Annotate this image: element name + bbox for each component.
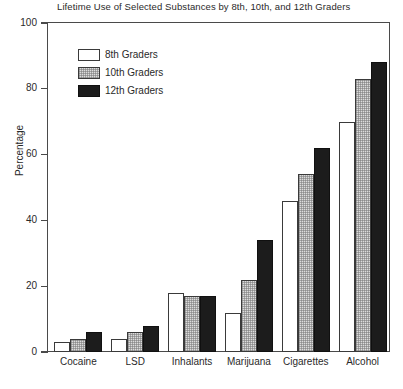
bar-group <box>339 23 387 352</box>
bar <box>200 296 216 352</box>
y-tick-mark <box>41 88 48 89</box>
bar <box>371 62 387 352</box>
bar <box>282 201 298 352</box>
y-tick-label: 80 <box>0 82 37 93</box>
bar <box>54 342 70 352</box>
y-tick-mark <box>41 220 48 221</box>
legend-label: 8th Graders <box>105 49 158 60</box>
y-tick-label: 40 <box>0 214 37 225</box>
bar-group <box>225 23 273 352</box>
bar <box>143 326 159 352</box>
legend-swatch <box>78 67 100 79</box>
y-tick-label: 60 <box>0 148 37 159</box>
bar-group <box>168 23 216 352</box>
bar-group <box>282 23 330 352</box>
bar <box>127 332 143 352</box>
y-tick-mark <box>41 286 48 287</box>
bar <box>86 332 102 352</box>
legend-label: 10th Graders <box>105 67 163 78</box>
bar <box>168 293 184 352</box>
bar <box>70 339 86 352</box>
y-tick-mark <box>41 154 48 155</box>
y-tick-mark <box>41 351 48 352</box>
y-tick-label: 100 <box>0 17 37 28</box>
legend-label: 12th Graders <box>105 85 163 96</box>
bar <box>241 280 257 352</box>
bar <box>314 148 330 352</box>
x-axis-label: Alcohol <box>325 356 401 367</box>
y-tick-label: 0 <box>0 346 37 357</box>
bar <box>111 339 127 352</box>
bar <box>298 174 314 352</box>
bar <box>257 240 273 352</box>
legend-swatch <box>78 85 100 97</box>
bar <box>184 296 200 352</box>
bar <box>225 313 241 352</box>
y-tick-label: 20 <box>0 280 37 291</box>
chart-title: Lifetime Use of Selected Substances by 8… <box>57 1 397 12</box>
y-tick-mark <box>41 22 48 23</box>
legend-swatch <box>78 49 100 61</box>
bar-chart: Lifetime Use of Selected Substances by 8… <box>0 0 403 389</box>
bar <box>355 79 371 352</box>
bar <box>339 122 355 352</box>
